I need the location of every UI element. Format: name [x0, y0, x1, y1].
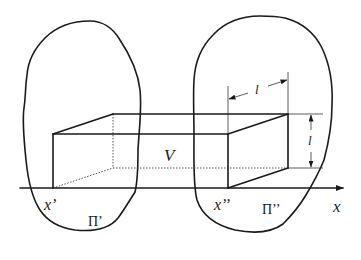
plane-double-prime-label: Π’’	[262, 202, 280, 217]
dim-arrow-top-right	[268, 80, 287, 86]
dim-arrow-top-left	[229, 93, 248, 99]
length-label-side: l	[308, 133, 312, 148]
box-bottom-right-depth-edge	[228, 168, 288, 188]
length-label-top: l	[255, 82, 259, 97]
box-top-right-depth-edge	[228, 114, 288, 134]
x-prime-label: x’	[43, 196, 56, 213]
x-axis-label: x	[332, 197, 341, 216]
volume-label: V	[164, 146, 177, 165]
plane-prime-outline	[23, 21, 141, 231]
box-hidden-depth-edge	[53, 168, 113, 188]
volume-between-planes-diagram: V l l x’ x’’ Π’ Π’’ x	[0, 0, 361, 260]
x-double-prime-label: x’’	[213, 196, 230, 213]
plane-prime-label: Π’	[88, 214, 103, 229]
box-top-left-depth-edge	[53, 114, 113, 134]
